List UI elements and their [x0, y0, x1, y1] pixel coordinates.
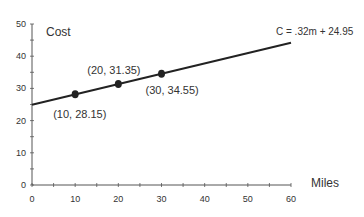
tick-marks: [30, 24, 291, 187]
x-tick-label: 30: [156, 194, 166, 204]
data-point: [72, 90, 79, 98]
x-tick-label: 20: [113, 194, 123, 204]
y-tick-label: 10: [16, 148, 26, 158]
equation-label: C = .32m + 24.95: [276, 26, 354, 37]
y-tick-label: 40: [16, 51, 26, 61]
x-tick-label: 60: [286, 194, 296, 204]
x-tick-label: 40: [200, 194, 210, 204]
data-point-label: (30, 34.55): [146, 84, 199, 96]
y-tick-label: 0: [21, 180, 26, 190]
cost-vs-miles-chart: 010203040500102030405060 (10, 28.15)(20,…: [0, 0, 364, 217]
x-axis-label: Miles: [311, 176, 339, 190]
data-point: [115, 80, 122, 88]
data-point: [158, 70, 165, 78]
x-tick-label: 10: [70, 194, 80, 204]
x-tick-label: 0: [29, 194, 34, 204]
y-tick-label: 20: [16, 116, 26, 126]
y-axis-label: Cost: [46, 25, 71, 39]
axes: [32, 24, 291, 185]
y-tick-label: 30: [16, 83, 26, 93]
x-tick-label: 50: [243, 194, 253, 204]
data-point-label: (10, 28.15): [53, 108, 106, 120]
y-tick-label: 50: [16, 19, 26, 29]
data-point-label: (20, 31.35): [87, 64, 140, 76]
